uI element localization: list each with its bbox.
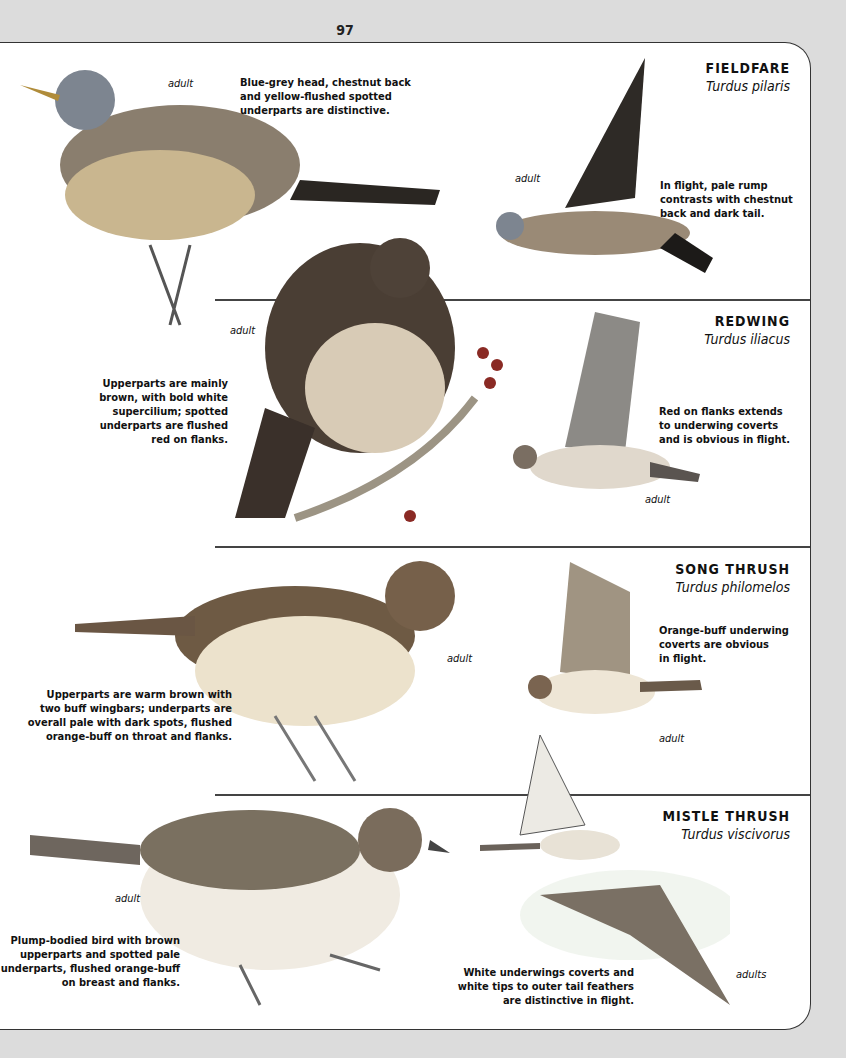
fieldfare-flight-description: In flight, pale rump contrasts with ches… — [660, 179, 793, 221]
desc-line: underparts, flushed orange-buff — [0, 962, 180, 976]
desc-line: Plump-bodied bird with brown — [0, 934, 180, 948]
desc-line: underparts are distinctive. — [240, 104, 411, 118]
desc-line: in flight. — [659, 652, 789, 666]
desc-line: In flight, pale rump — [660, 179, 793, 193]
species-name: FIELDFARE — [706, 60, 790, 76]
fieldfare-perched-label: adult — [168, 77, 193, 90]
desc-line: white tips to outer tail feathers — [420, 980, 634, 994]
desc-line: overall pale with dark spots, flushed — [18, 716, 232, 730]
desc-line: on breast and flanks. — [0, 976, 180, 990]
desc-line: and yellow-flushed spotted — [240, 90, 411, 104]
redwing-flight-description: Red on flanks extends to underwing cover… — [659, 405, 790, 447]
desc-line: orange-buff on throat and flanks. — [18, 730, 232, 744]
song-thrush-perched-label: adult — [447, 652, 472, 665]
species-latin-name: Turdus iliacus — [704, 331, 790, 347]
desc-line: contrasts with chestnut — [660, 193, 793, 207]
mistle-thrush-flight-label: adults — [736, 968, 766, 981]
species-name: MISTLE THRUSH — [662, 808, 790, 824]
desc-line: and is obvious in flight. — [659, 433, 790, 447]
mistle-thrush-perched-description: Plump-bodied bird with brown upperparts … — [0, 934, 180, 990]
desc-line: supercilium; spotted — [80, 405, 228, 419]
species-latin-name: Turdus philomelos — [676, 579, 790, 595]
song-thrush-perched-description: Upperparts are warm brown with two buff … — [18, 688, 232, 744]
desc-line: Red on flanks extends — [659, 405, 790, 419]
desc-line: Orange-buff underwing — [659, 624, 789, 638]
mistle-thrush-perched-label: adult — [115, 892, 140, 905]
desc-line: White underwings coverts and — [420, 966, 634, 980]
redwing-perched-description: Upperparts are mainly brown, with bold w… — [80, 377, 228, 447]
species-name: REDWING — [715, 313, 790, 329]
desc-line: upperparts and spotted pale — [0, 948, 180, 962]
desc-line: are distinctive in flight. — [420, 994, 634, 1008]
song-thrush-perched-illustration — [75, 556, 485, 786]
desc-line: Upperparts are warm brown with — [18, 688, 232, 702]
species-name: SONG THRUSH — [675, 561, 790, 577]
fieldfare-flight-label: adult — [515, 172, 540, 185]
section-divider — [215, 546, 810, 548]
redwing-flight-label: adult — [645, 493, 670, 506]
desc-line: brown, with bold white — [80, 391, 228, 405]
page-number: 97 — [0, 22, 690, 38]
species-latin-name: Turdus viscivorus — [681, 826, 790, 842]
desc-line: red on flanks. — [80, 433, 228, 447]
desc-line: coverts are obvious — [659, 638, 789, 652]
song-thrush-flight-description: Orange-buff underwing coverts are obviou… — [659, 624, 789, 666]
desc-line: two buff wingbars; underparts are — [18, 702, 232, 716]
mistle-thrush-flight-illustration — [480, 735, 730, 1005]
mistle-thrush-flight-description: White underwings coverts and white tips … — [420, 966, 634, 1008]
desc-line: to underwing coverts — [659, 419, 790, 433]
redwing-perched-illustration — [235, 228, 515, 538]
desc-line: underparts are flushed — [80, 419, 228, 433]
fieldfare-perched-description: Blue-grey head, chestnut back and yellow… — [240, 76, 411, 118]
desc-line: back and dark tail. — [660, 207, 793, 221]
desc-line: Blue-grey head, chestnut back — [240, 76, 411, 90]
desc-line: Upperparts are mainly — [80, 377, 228, 391]
species-latin-name: Turdus pilaris — [706, 78, 790, 94]
